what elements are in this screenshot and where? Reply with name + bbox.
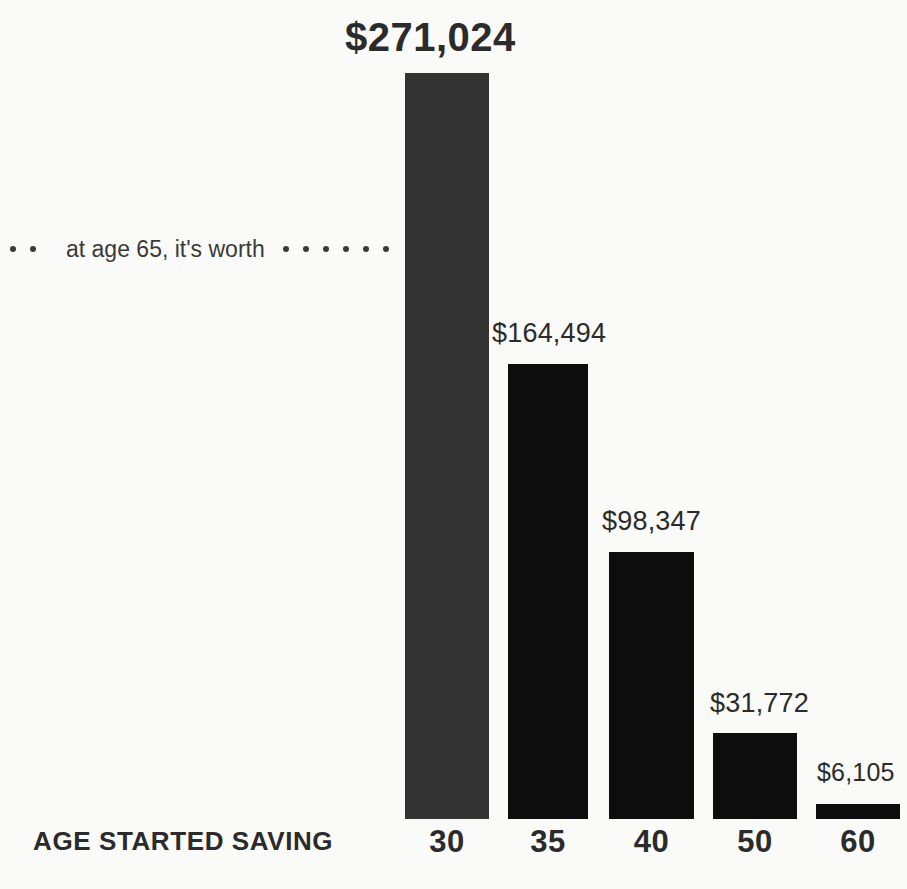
leader-dot [323,246,329,252]
chart-canvas: $271,024 $164,494 $98,347 $31,772 $6,105… [0,0,907,889]
x-axis-tick-40: 40 [609,824,694,860]
leader-dot [30,246,36,252]
bar-value-label-age-50: $31,772 [710,688,809,719]
bar-value-label-age-35: $164,494 [492,318,606,349]
bar-value-label-age-30: $271,024 [345,15,516,60]
leader-dots-right-icon [283,236,403,262]
leader-dot [303,246,309,252]
bar-value-label-age-40: $98,347 [602,506,701,537]
leader-dot [363,246,369,252]
x-axis-tick-30: 30 [405,824,489,860]
leader-dots-left-icon [10,236,50,262]
bar-age-30 [405,73,489,819]
leader-dot [283,246,289,252]
x-axis-title: AGE STARTED SAVING [33,826,333,857]
bar-age-40 [609,552,694,819]
bar-age-60 [816,804,900,819]
x-axis-tick-50: 50 [713,824,797,860]
annotation-at-age-65: at age 65, it's worth [0,236,405,262]
annotation-label: at age 65, it's worth [66,236,265,263]
leader-dot [10,246,16,252]
x-axis-tick-35: 35 [508,824,588,860]
leader-dot [383,246,389,252]
bar-age-35 [508,364,588,819]
bar-value-label-age-60: $6,105 [817,758,895,787]
leader-dot [343,246,349,252]
bar-age-50 [713,733,797,819]
x-axis-tick-60: 60 [816,824,900,860]
